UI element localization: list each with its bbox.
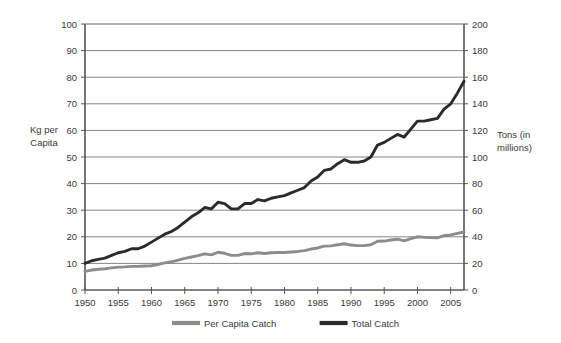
y-axis-left-tick-label: 50 xyxy=(66,152,77,163)
y-axis-right-title: millions) xyxy=(497,142,532,153)
y-axis-left-tick-label: 0 xyxy=(72,285,77,296)
x-axis-tick-label: 1955 xyxy=(108,297,129,308)
x-axis-tick-label: 1960 xyxy=(141,297,162,308)
y-axis-right-tick-label: 60 xyxy=(472,205,483,216)
x-axis-tick-label: 1990 xyxy=(340,297,361,308)
y-axis-left-tick-label: 10 xyxy=(66,258,77,269)
y-axis-left-tick-label: 30 xyxy=(66,205,77,216)
y-axis-left-title: Capita xyxy=(30,137,58,148)
y-axis-right-tick-label: 100 xyxy=(472,152,488,163)
x-axis-tick-label: 1970 xyxy=(207,297,228,308)
y-axis-right-tick-label: 180 xyxy=(472,45,488,56)
legend-label-per-capita-catch: Per Capita Catch xyxy=(204,318,276,329)
x-axis-tick-label: 2005 xyxy=(440,297,461,308)
y-axis-right-tick-label: 200 xyxy=(472,19,488,30)
y-axis-right-tick-label: 140 xyxy=(472,98,488,109)
legend-label-total-catch: Total Catch xyxy=(352,318,400,329)
x-axis-tick-label: 1975 xyxy=(241,297,262,308)
x-axis-tick-label: 1965 xyxy=(174,297,195,308)
y-axis-left-tick-label: 70 xyxy=(66,98,77,109)
y-axis-left-tick-label: 60 xyxy=(66,125,77,136)
y-axis-left-tick-label: 80 xyxy=(66,72,77,83)
y-axis-left-tick-label: 40 xyxy=(66,178,77,189)
y-axis-right-tick-label: 40 xyxy=(472,231,483,242)
x-axis-tick-label: 1995 xyxy=(374,297,395,308)
y-axis-left-tick-label: 90 xyxy=(66,45,77,56)
x-axis-tick-label: 1950 xyxy=(74,297,95,308)
y-axis-left-tick-label: 100 xyxy=(61,19,77,30)
x-axis-tick-label: 1980 xyxy=(274,297,295,308)
y-axis-right-title: Tons (in xyxy=(497,129,530,140)
x-axis-tick-label: 2000 xyxy=(407,297,428,308)
fisheries-catch-chart: 0102030405060708090100020406080100120140… xyxy=(0,0,561,343)
y-axis-right-tick-label: 20 xyxy=(472,258,483,269)
chart-canvas: 0102030405060708090100020406080100120140… xyxy=(0,0,561,343)
y-axis-right-tick-label: 0 xyxy=(472,285,477,296)
y-axis-right-tick-label: 160 xyxy=(472,72,488,83)
y-axis-left-title: Kg per xyxy=(30,124,58,135)
y-axis-right-tick-label: 80 xyxy=(472,178,483,189)
x-axis-tick-label: 1985 xyxy=(307,297,328,308)
y-axis-left-tick-label: 20 xyxy=(66,231,77,242)
y-axis-right-tick-label: 120 xyxy=(472,125,488,136)
